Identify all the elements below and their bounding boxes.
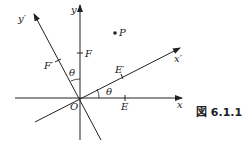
- point-P: [113, 31, 117, 35]
- label-y: y: [70, 4, 77, 15]
- label-F: F: [84, 48, 93, 59]
- x-prime-axis: [35, 48, 180, 122]
- angle-arc-x: [97, 89, 99, 98]
- label-E: E: [120, 101, 129, 112]
- angle-arc-y: [71, 79, 80, 81]
- figure-caption: 図 6.1.1: [196, 105, 242, 119]
- label-origin: O: [70, 101, 78, 112]
- label-F-prime: F′: [43, 60, 54, 71]
- label-E-prime: E′: [114, 64, 125, 75]
- label-theta-y: θ: [69, 67, 75, 78]
- label-x: x: [177, 99, 183, 110]
- label-y-prime: y′: [17, 13, 27, 24]
- label-P: P: [118, 27, 126, 38]
- y-prime-axis: [34, 14, 101, 140]
- coordinate-rotation-diagram: x y x′ y′ O E E′ F F′ P θ θ 図 6.1.1: [0, 0, 246, 144]
- label-x-prime: x′: [174, 53, 183, 64]
- label-theta-x: θ: [106, 86, 112, 97]
